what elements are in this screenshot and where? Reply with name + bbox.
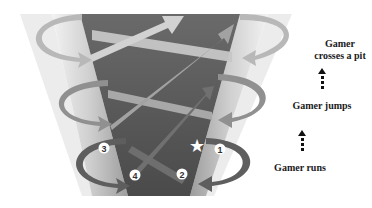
marker-1: 1	[215, 144, 226, 155]
progress-arrow-upper	[320, 68, 324, 89]
progress-arrow-lower	[300, 130, 304, 151]
caption-crosses-pit-line1: Gamer	[308, 38, 372, 50]
caption-runs: Gamer runs	[262, 162, 338, 174]
caption-jumps: Gamer jumps	[280, 100, 364, 112]
marker-3: 3	[99, 143, 110, 154]
marker-3-label: 3	[101, 144, 106, 154]
marker-1-label: 1	[217, 145, 222, 155]
arrowhead-icon	[318, 68, 326, 74]
star-icon: ★	[189, 135, 205, 156]
arrowhead-icon	[298, 130, 306, 136]
caption-crosses-pit: Gamer crosses a pit	[308, 38, 372, 62]
marker-2-label: 2	[179, 170, 184, 180]
marker-4-label: 4	[132, 171, 137, 181]
caption-crosses-pit-line2: crosses a pit	[308, 50, 372, 62]
marker-2: 2	[177, 169, 188, 180]
marker-4: 4	[130, 170, 141, 181]
